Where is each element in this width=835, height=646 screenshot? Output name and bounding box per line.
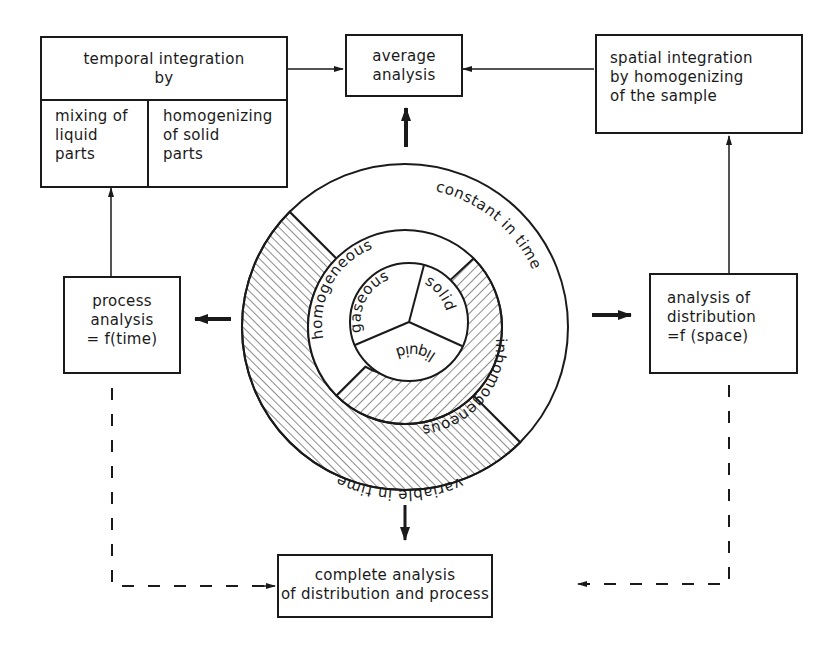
- process-analysis-box: process analysis = f(time): [63, 276, 181, 374]
- dashed-process-to-complete: [112, 388, 270, 586]
- homogenizing-solid-cell: homogenizing of solid parts: [163, 107, 273, 164]
- distribution-analysis-text: analysis of distribution =f (space): [667, 289, 756, 346]
- complete-analysis-text: complete analysis of distribution and pr…: [279, 566, 491, 604]
- divider: [147, 99, 149, 186]
- temporal-integration-box: temporal integration by mixing of liquid…: [40, 36, 288, 188]
- spatial-integration-box: spatial integration by homogenizing of t…: [595, 34, 803, 134]
- average-analysis-text: average analysis: [347, 47, 461, 85]
- state-circle: constant in time variable in time homoge…: [242, 164, 568, 504]
- average-analysis-box: average analysis: [345, 34, 463, 97]
- dashed-distribution-to-complete: [580, 385, 729, 584]
- complete-analysis-box: complete analysis of distribution and pr…: [277, 554, 493, 618]
- distribution-analysis-box: analysis of distribution =f (space): [649, 273, 798, 374]
- process-analysis-text: process analysis = f(time): [65, 292, 179, 349]
- spatial-integration-text: spatial integration by homogenizing of t…: [610, 49, 753, 106]
- mixing-liquid-cell: mixing of liquid parts: [55, 107, 128, 164]
- temporal-integration-title: temporal integration by: [42, 50, 286, 88]
- divider: [42, 99, 286, 101]
